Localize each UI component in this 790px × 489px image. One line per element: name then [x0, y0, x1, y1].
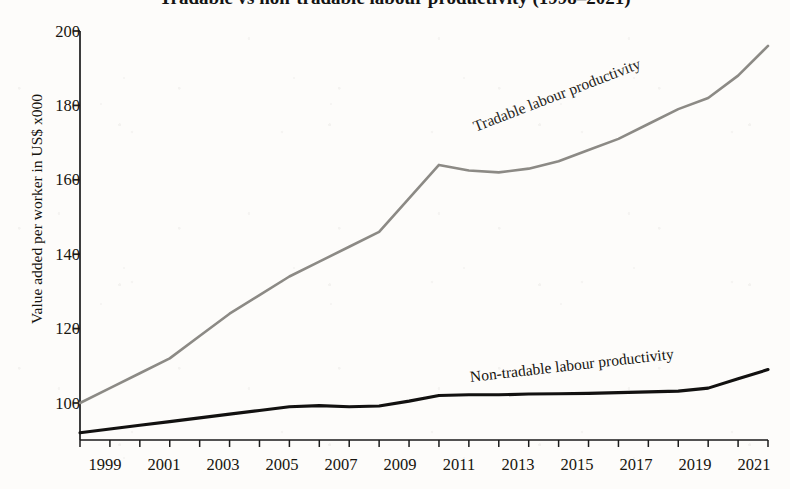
- chart-title-clipped: Tradable vs non-tradable labour producti…: [0, 0, 790, 13]
- series-line-nontradable: [80, 370, 768, 433]
- y-axis-title: Value added per worker in US$ x000: [28, 44, 46, 374]
- y-tick-marks: [73, 31, 80, 403]
- series-lines: [80, 46, 768, 433]
- axis-lines: [80, 31, 768, 440]
- x-tick-marks: [80, 440, 768, 447]
- plot-area: [0, 0, 790, 489]
- chart-figure: Tradable vs non-tradable labour producti…: [0, 0, 790, 489]
- chart-title-text: Tradable vs non-tradable labour producti…: [0, 0, 790, 9]
